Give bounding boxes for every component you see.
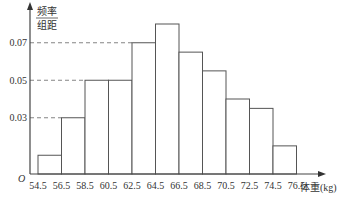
histogram-bar <box>273 146 297 174</box>
x-tick-label: 56.5 <box>53 180 71 191</box>
x-tick-label: 60.5 <box>100 180 118 191</box>
histogram-bars <box>38 24 297 174</box>
y-tick-label: 0.03 <box>10 112 28 123</box>
histogram-chart: 频率 组距 O 0.030.050.07 54.556.558.560.562.… <box>0 0 356 204</box>
histogram-bar <box>62 118 86 174</box>
x-tick-label: 54.5 <box>29 180 47 191</box>
histogram-bar <box>132 43 156 174</box>
histogram-bar <box>203 71 227 174</box>
x-tick-label: 70.5 <box>217 180 235 191</box>
histogram-bar <box>109 80 133 174</box>
histogram-bar <box>250 108 274 174</box>
x-tick-label: 64.5 <box>147 180 165 191</box>
y-axis-arrow-icon <box>27 2 33 10</box>
histogram-bar <box>38 155 62 174</box>
x-tick-label: 62.5 <box>123 180 141 191</box>
y-label-denominator: 组距 <box>37 19 57 31</box>
x-tick-labels: 54.556.558.560.562.564.566.568.570.572.5… <box>29 180 305 191</box>
x-axis-arrow-icon <box>318 171 326 177</box>
y-tick-labels: 0.030.050.07 <box>10 37 28 123</box>
histogram-bar <box>156 24 180 174</box>
x-axis-label: 体重(kg) <box>300 181 337 194</box>
origin-label: O <box>18 173 25 184</box>
y-label-numerator: 频率 <box>37 5 57 17</box>
x-tick-label: 74.5 <box>264 180 282 191</box>
x-tick-label: 72.5 <box>241 180 259 191</box>
y-tick-label: 0.07 <box>10 37 28 48</box>
y-tick-label: 0.05 <box>10 75 28 86</box>
x-tick-label: 58.5 <box>76 180 94 191</box>
histogram-bar <box>179 52 203 174</box>
histogram-bar <box>85 80 109 174</box>
x-tick-label: 66.5 <box>170 180 188 191</box>
x-tick-label: 68.5 <box>194 180 212 191</box>
histogram-bar <box>226 99 250 174</box>
